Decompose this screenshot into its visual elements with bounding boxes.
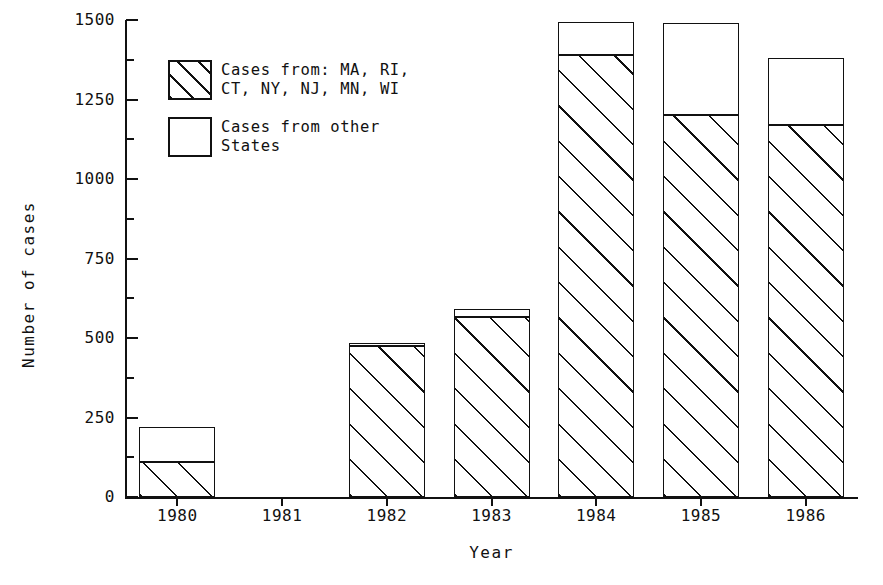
bar-segment-endemic-states (768, 125, 844, 497)
y-axis-title: Number of cases (19, 175, 38, 395)
y-tick-minor (126, 297, 134, 299)
bar-segment-other-states (139, 427, 215, 462)
y-tick-major (126, 496, 138, 498)
y-tick-label: 500 (63, 330, 115, 346)
y-tick-label: 1250 (63, 92, 115, 108)
legend-item-label: Cases from other States (221, 117, 380, 156)
y-tick-minor (126, 138, 134, 140)
bar-segment-other-states (768, 58, 844, 125)
y-tick-major (126, 337, 138, 339)
legend-line-1: Cases from other (221, 118, 380, 136)
bar-1984 (558, 22, 634, 497)
x-tick-label: 1981 (237, 508, 327, 524)
bar-1980 (139, 427, 215, 497)
open-swatch-icon (168, 117, 212, 157)
bar-segment-endemic-states (139, 462, 215, 497)
legend-item-other-states: Cases from other States (168, 117, 380, 157)
x-tick (176, 499, 178, 506)
bar-1986 (768, 58, 844, 497)
y-tick-label: 250 (63, 410, 115, 426)
hatched-swatch-icon (168, 60, 212, 100)
y-axis-line (125, 20, 127, 499)
legend-line-2: States (221, 137, 281, 155)
y-tick-major (126, 99, 138, 101)
bar-segment-other-states (454, 309, 530, 317)
bar-1985 (663, 23, 739, 497)
bar-1982 (349, 343, 425, 497)
x-tick-label: 1986 (761, 508, 851, 524)
y-tick-major (126, 258, 138, 260)
legend-item-label: Cases from: MA, RI, CT, NY, NJ, MN, WI (221, 60, 410, 99)
x-tick (281, 499, 283, 506)
bar-segment-endemic-states (558, 55, 634, 497)
y-tick-major (126, 417, 138, 419)
x-tick-label: 1984 (551, 508, 641, 524)
x-tick-label: 1980 (132, 508, 222, 524)
y-tick-minor (126, 456, 134, 458)
y-tick-minor (126, 218, 134, 220)
y-tick-minor (126, 377, 134, 379)
bar-segment-other-states (663, 23, 739, 115)
y-tick-label: 0 (63, 489, 115, 505)
y-tick-label: 1500 (63, 12, 115, 28)
bar-1983 (454, 309, 530, 497)
x-tick (491, 499, 493, 506)
bar-segment-endemic-states (454, 317, 530, 497)
legend-line-1: Cases from: MA, RI, (221, 61, 410, 79)
x-tick-label: 1985 (656, 508, 746, 524)
bar-segment-endemic-states (349, 346, 425, 497)
x-tick-label: 1983 (447, 508, 537, 524)
y-tick-major (126, 178, 138, 180)
bar-segment-endemic-states (663, 115, 739, 497)
legend-line-2: CT, NY, NJ, MN, WI (221, 80, 400, 98)
x-tick (805, 499, 807, 506)
x-tick (595, 499, 597, 506)
legend-item-endemic-states: Cases from: MA, RI, CT, NY, NJ, MN, WI (168, 60, 410, 100)
y-tick-major (126, 19, 138, 21)
y-tick-label: 750 (63, 251, 115, 267)
x-tick-label: 1982 (342, 508, 432, 524)
y-tick-label: 1000 (63, 171, 115, 187)
y-tick-minor (126, 59, 134, 61)
bar-segment-other-states (558, 22, 634, 55)
x-axis-title: Year (125, 543, 858, 562)
bar-chart-figure: 0250500750100012501500 19801981198219831… (0, 0, 883, 585)
x-tick (700, 499, 702, 506)
x-tick (386, 499, 388, 506)
legend: Cases from: MA, RI, CT, NY, NJ, MN, WI C… (168, 60, 468, 165)
